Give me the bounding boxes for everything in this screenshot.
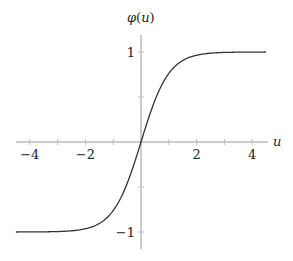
x-tick-label: −2 <box>76 147 95 162</box>
x-axis-label: u <box>273 134 281 149</box>
x-tick-label: −4 <box>20 147 39 162</box>
y-axis-label: φ(u) <box>127 10 155 25</box>
chart: −4−224−11 u φ(u) <box>0 0 293 261</box>
x-tick-label: 2 <box>192 147 200 162</box>
y-tick-label: 1 <box>127 45 135 60</box>
x-tick-label: 4 <box>248 147 256 162</box>
axes <box>16 35 268 249</box>
y-tick-label: −1 <box>116 225 135 240</box>
